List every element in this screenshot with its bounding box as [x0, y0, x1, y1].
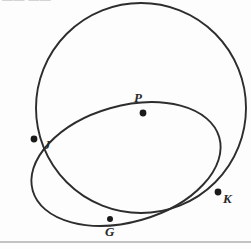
point-label-g: G: [105, 225, 114, 238]
large-circle: [36, 3, 246, 213]
point-dot-p: [140, 110, 147, 117]
point-label-p: P: [134, 91, 142, 104]
point-label-k: K: [223, 192, 232, 205]
circles-group: [17, 3, 246, 246]
point-dot-j: [31, 136, 38, 143]
point-dot-k: [215, 189, 222, 196]
point-dot-g: [107, 216, 113, 222]
small-circle: [17, 82, 235, 247]
points-group: [31, 110, 222, 222]
geometry-figure: —— —— J P K G: [0, 0, 251, 249]
figure-canvas: [0, 0, 251, 249]
point-label-j: J: [44, 138, 51, 151]
